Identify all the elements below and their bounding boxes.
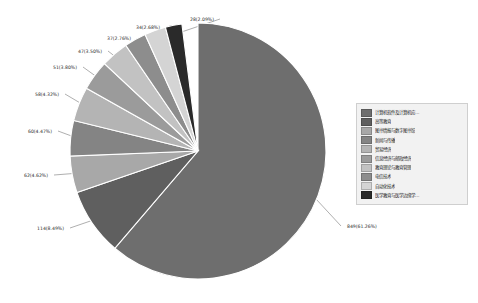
- legend-item[interactable]: 电信技术: [361, 172, 464, 181]
- legend-color-swatch: [361, 191, 372, 199]
- legend-color-swatch: [361, 136, 372, 144]
- pie-slice-label: 47(3.50%): [78, 49, 102, 54]
- legend-item-label: 高等教育: [375, 117, 391, 126]
- legend-item[interactable]: 图书情报与数字图书馆: [361, 126, 464, 135]
- pie-chart-figure: 849(61.26%)114(8.49%)62(4.62%)60(4.47%)5…: [0, 0, 478, 303]
- pie-slice-label: 28(2.09%): [190, 17, 214, 22]
- legend-item[interactable]: 医学教育与医学边缘学…: [361, 191, 464, 200]
- legend-item-label: 计算机软件及计算机应…: [375, 108, 420, 117]
- legend-color-swatch: [361, 173, 372, 181]
- pie-slice-label: 114(8.49%): [37, 226, 64, 231]
- pie-slice-label: 62(4.62%): [24, 173, 48, 178]
- pie-slice-label: 60(4.47%): [28, 129, 52, 134]
- legend-item[interactable]: 新闻与传播: [361, 136, 464, 145]
- legend-item[interactable]: 教育理论与教育管理: [361, 163, 464, 172]
- legend-item-label: 信息经济与邮政经济: [375, 154, 411, 163]
- legend-item[interactable]: 自动化技术: [361, 182, 464, 191]
- legend-color-swatch: [361, 164, 372, 172]
- legend-color-swatch: [361, 118, 372, 126]
- legend-item-label: 电信技术: [375, 172, 391, 181]
- legend-item[interactable]: 信息经济与邮政经济: [361, 154, 464, 163]
- legend-item[interactable]: 计算机软件及计算机应…: [361, 108, 464, 117]
- legend-color-swatch: [361, 145, 372, 153]
- legend-item-label: 图书情报与数字图书馆: [375, 126, 415, 135]
- legend-color-swatch: [361, 127, 372, 135]
- legend-item-label: 自动化技术: [375, 182, 395, 191]
- legend-item[interactable]: 贸易经济: [361, 145, 464, 154]
- legend-item-label: 贸易经济: [375, 145, 391, 154]
- legend-color-swatch: [361, 109, 372, 117]
- pie-slice-label: 849(61.26%): [347, 224, 377, 229]
- chart-legend: 计算机软件及计算机应…高等教育图书情报与数字图书馆新闻与传播贸易经济信息经济与邮…: [356, 103, 468, 205]
- legend-item-label: 教育理论与教育管理: [375, 163, 411, 172]
- pie-slice-label: 34(2.68%): [136, 25, 160, 30]
- pie-slice-label: 58(4.32%): [35, 92, 59, 97]
- legend-item-label: 医学教育与医学边缘学…: [375, 191, 420, 200]
- legend-item-label: 新闻与传播: [375, 136, 395, 145]
- legend-item[interactable]: 高等教育: [361, 117, 464, 126]
- pie-slice-label: 37(2.76%): [107, 36, 131, 41]
- pie-slices: [70, 23, 326, 279]
- legend-color-swatch: [361, 155, 372, 163]
- legend-color-swatch: [361, 182, 372, 190]
- pie-slice-label: 51(3.80%): [53, 65, 77, 70]
